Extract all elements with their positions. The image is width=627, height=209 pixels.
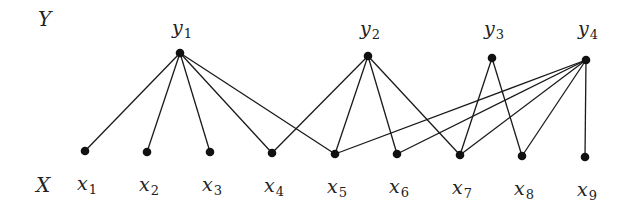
node-x2: [143, 148, 152, 157]
node-x8: [518, 152, 527, 161]
node-label-x3: x3: [202, 173, 222, 198]
node-label-y3: y3: [483, 17, 504, 42]
node-label-x6: x6: [389, 175, 409, 200]
node-y1: [176, 49, 185, 58]
edge-y3-x8: [492, 58, 522, 156]
edge-y4-x7: [460, 60, 586, 155]
node-y3: [488, 54, 497, 63]
edge-y1-x4: [180, 53, 272, 153]
node-label-x4: x4: [264, 174, 284, 199]
node-y4: [582, 56, 591, 65]
edge-y2-x7: [368, 56, 460, 155]
edge-y4-x5: [335, 60, 586, 154]
edge-y4-x6: [397, 60, 586, 154]
node-label-x5: x5: [327, 175, 347, 200]
node-label-y1: y1: [171, 16, 192, 41]
edge-y2-x4: [272, 56, 368, 153]
edge-y1-x2: [147, 53, 180, 152]
node-label-x7: x7: [452, 176, 472, 201]
node-label-x1: x1: [77, 172, 97, 197]
node-x1: [81, 147, 90, 156]
edge-layer: [85, 53, 586, 157]
node-x3: [206, 148, 215, 157]
node-x9: [581, 153, 590, 162]
edge-y1-x5: [180, 53, 335, 154]
node-label-y2: y2: [359, 17, 380, 42]
edge-y4-x9: [585, 60, 586, 157]
node-y2: [364, 52, 373, 61]
node-x5: [331, 150, 340, 159]
node-x7: [456, 151, 465, 160]
node-label-x8: x8: [514, 177, 534, 202]
edge-y1-x3: [180, 53, 210, 152]
set-label-y: Y: [38, 7, 53, 31]
set-label-x: X: [34, 173, 51, 197]
node-layer: [81, 49, 591, 162]
edge-y2-x5: [335, 56, 368, 154]
bipartite-graph: Y X y1y2y3y4x1x2x3x4x5x6x7x8x9: [0, 0, 627, 209]
edge-y4-x8: [522, 60, 586, 156]
node-x6: [393, 150, 402, 159]
node-label-y4: y4: [577, 17, 598, 42]
node-label-x2: x2: [139, 173, 159, 198]
node-x4: [268, 149, 277, 158]
label-layer: Y X y1y2y3y4x1x2x3x4x5x6x7x8x9: [34, 7, 598, 203]
edge-y1-x1: [85, 53, 180, 151]
node-label-x9: x9: [577, 178, 597, 203]
edge-y3-x7: [460, 58, 492, 155]
